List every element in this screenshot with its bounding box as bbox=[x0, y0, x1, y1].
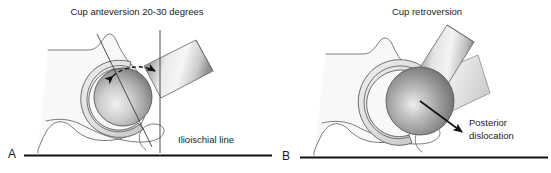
panel-b: Cup retroversion bbox=[275, 0, 551, 173]
ilioischial-line-label: Ilioischial line bbox=[178, 134, 234, 145]
posterior-dislocation-label-line2: dislocation bbox=[469, 130, 514, 141]
stem-body-a bbox=[144, 40, 213, 98]
panel-a-illustration: Cup anteversion 20-30 degrees bbox=[0, 0, 275, 173]
panel-a: Cup anteversion 20-30 degrees bbox=[0, 0, 275, 173]
panel-a-title: Cup anteversion 20-30 degrees bbox=[70, 6, 203, 17]
panel-b-title: Cup retroversion bbox=[392, 6, 462, 17]
femoral-head-a bbox=[94, 68, 152, 126]
posterior-dislocation-label-line1: Posterior bbox=[469, 117, 507, 128]
figure-container: Cup anteversion 20-30 degrees bbox=[0, 0, 551, 173]
femoral-stem-a bbox=[144, 40, 213, 98]
panel-letter-b: B bbox=[282, 149, 290, 163]
panel-b-illustration: Cup retroversion bbox=[275, 0, 551, 173]
panel-letter-a: A bbox=[8, 147, 16, 161]
